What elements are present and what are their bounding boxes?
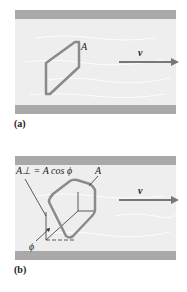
panel-b: A⊥ = A cos ϕ A ϕ v⃗ [15, 156, 176, 260]
area-loop-icon [49, 180, 95, 238]
diagram-b: A⊥ = A cos ϕ A ϕ v⃗ [15, 156, 176, 260]
angle-arrow-icon [36, 228, 50, 241]
panel-b-label: (b) [14, 264, 26, 275]
velocity-label: v⃗ [138, 47, 150, 58]
area-loop-icon [46, 42, 79, 94]
panel-a: A v⃗ [15, 10, 176, 115]
area-label: A [80, 41, 88, 52]
diagram-a: A v⃗ [15, 10, 176, 115]
area-label: A [94, 165, 102, 176]
panel-a-label: (a) [14, 118, 26, 129]
velocity-label: v⃗ [138, 185, 150, 196]
angle-label: ϕ [29, 241, 34, 252]
area-leader [89, 176, 98, 186]
perp-area-label: A⊥ = A cos ϕ [15, 165, 72, 176]
perp-area-leader [25, 179, 46, 216]
